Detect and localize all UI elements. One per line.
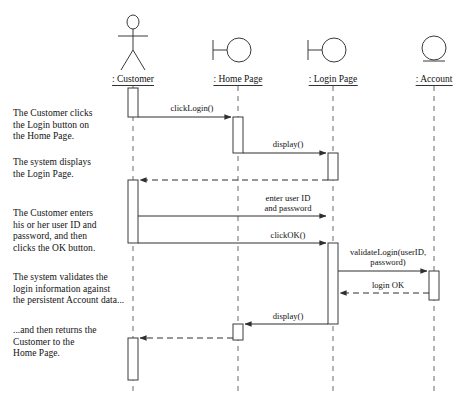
activation-bar [128,88,138,117]
message-label-enter-user-id: enter user ID and password [264,194,311,214]
message-label-click-login: clickLogin() [171,104,214,114]
narrative-step-3: The Customer enters his or her user ID a… [13,208,97,254]
message-label-click-ok: clickOK() [271,231,306,241]
message-label-login-ok: login OK [372,281,404,291]
narrative-step-1: The Customer clicks the Login button on … [13,108,93,143]
activation-bar [128,180,138,243]
activation-bar [429,271,439,300]
activation-bar [128,338,138,380]
activation-bar [233,324,243,340]
entity-circle-icon-account [422,36,446,61]
lifeline-label-account[interactable]: : Account [416,74,453,86]
activation-bar [233,117,243,153]
activation-bar [328,243,338,324]
narrative-step-2: The system displays the Login Page. [13,157,91,180]
lifeline-label-login-page[interactable]: : Login Page [309,74,358,86]
lifeline-label-home-page[interactable]: : Home Page [213,74,262,86]
message-label-display-login-page: display() [273,140,304,150]
boundary-circle-icon-login-page [308,38,346,62]
message-label-validate-login: validateLogin(userID, password) [350,248,426,268]
actor-stick-figure [118,15,148,70]
message-label-display-home-page: display() [273,312,304,322]
boundary-circle-icon-home-page [213,38,251,62]
narrative-step-4: The system validates the login informati… [13,272,124,307]
narrative-step-5: ...and then returns the Customer to the … [13,325,96,360]
lifeline-label-customer[interactable]: : Customer [112,74,154,86]
activation-bar [328,153,338,180]
